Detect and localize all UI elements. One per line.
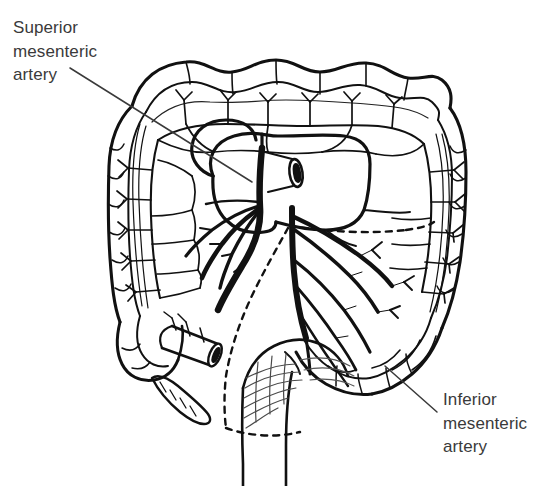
label-inferior-mesenteric-artery: Inferior mesenteric artery <box>443 388 527 459</box>
label-superior-mesenteric-artery: Superior mesenteric artery <box>13 16 97 87</box>
